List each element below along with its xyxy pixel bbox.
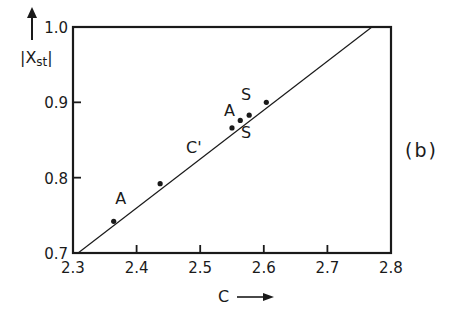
fit-line [78, 27, 372, 253]
chart: 2.32.42.52.62.72.80.70.80.91.0 AC'ASS |X… [0, 0, 470, 321]
y-arrowhead-icon [27, 7, 37, 18]
y-tick-label: 1.0 [44, 19, 68, 37]
point-annotation: C' [186, 138, 202, 157]
x-tick-label: 2.6 [252, 259, 276, 277]
x-arrowhead-icon [263, 293, 274, 301]
x-axis-title: C [218, 287, 229, 306]
fit-line-path [78, 27, 372, 253]
data-point [111, 219, 116, 224]
data-point [158, 181, 163, 186]
y-tick-label: 0.8 [44, 170, 68, 188]
point-annotation: S [241, 85, 251, 104]
plot-border [73, 27, 391, 253]
annotations: AC'ASS [115, 85, 251, 208]
data-points [111, 100, 269, 224]
data-point [238, 118, 243, 123]
y-tick-label: 0.7 [44, 245, 68, 263]
y-tick-label: 0.9 [44, 94, 68, 112]
x-tick-label: 2.4 [125, 259, 149, 277]
x-tick-label: 2.5 [188, 259, 212, 277]
panel-label: (b) [405, 139, 438, 161]
x-tick-label: 2.8 [379, 259, 403, 277]
x-tick-label: 2.7 [315, 259, 339, 277]
point-annotation: S [241, 123, 251, 142]
data-point [247, 113, 252, 118]
plot-frame [73, 27, 391, 253]
y-axis-title: |Xst| [20, 48, 53, 69]
point-annotation: A [224, 101, 235, 120]
y-axis-label: |Xst| [20, 7, 53, 69]
x-axis-label: C [218, 287, 274, 306]
point-annotation: A [115, 189, 126, 208]
data-point [264, 100, 269, 105]
data-point [229, 125, 234, 130]
